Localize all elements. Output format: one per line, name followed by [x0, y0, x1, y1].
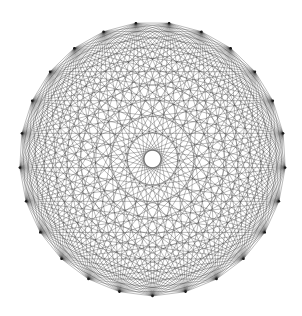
- graph-vertex: [229, 47, 231, 49]
- graph-vertex: [25, 200, 27, 202]
- graph-vertex: [264, 231, 266, 233]
- graph-vertex: [73, 47, 75, 49]
- graph-vertex: [184, 291, 186, 293]
- graph-vertex: [254, 70, 256, 72]
- graph-vertex: [118, 291, 120, 293]
- graph-vertex: [87, 278, 89, 280]
- graph-vertex: [272, 99, 274, 101]
- complete-graph-diagram: [0, 0, 302, 316]
- graph-vertex: [151, 295, 153, 297]
- graph-vertex: [21, 132, 23, 134]
- graph-vertex: [242, 258, 244, 260]
- graph-vertex: [284, 166, 286, 168]
- graph-vertex: [135, 22, 137, 24]
- graph-vertex: [278, 200, 280, 202]
- graph-vertex: [168, 22, 170, 24]
- graph-vertex: [39, 231, 41, 233]
- graph-vertex: [215, 278, 217, 280]
- graph-vertex: [49, 70, 51, 72]
- graph-vertex: [102, 30, 104, 32]
- graph-vertex: [200, 30, 202, 32]
- graph-vertex: [19, 166, 21, 168]
- graph-vertex: [31, 99, 33, 101]
- graph-vertex: [60, 258, 62, 260]
- graph-vertex: [282, 132, 284, 134]
